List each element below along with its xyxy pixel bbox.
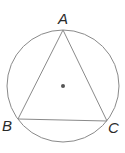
segment-ca <box>63 30 107 121</box>
inscribed-triangle-diagram: A B C <box>0 0 125 153</box>
segment-bc <box>18 119 107 121</box>
segment-ab <box>18 30 63 119</box>
center-point <box>61 84 65 88</box>
vertex-label-a: A <box>57 10 68 27</box>
vertex-label-c: C <box>108 119 119 136</box>
vertex-label-b: B <box>2 117 12 134</box>
